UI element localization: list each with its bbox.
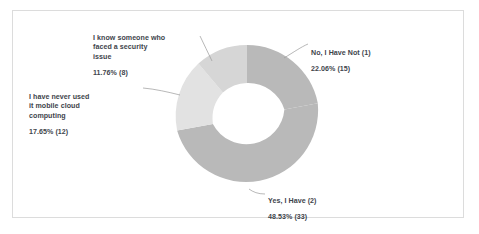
chart-plot-area: No, I Have Not (1) 22.06% (15) Yes, I Ha… [0, 0, 479, 234]
donut-chart-figure: No, I Have Not (1) 22.06% (15) Yes, I Ha… [0, 0, 479, 234]
slice-label-value: 17.65% (12) [29, 128, 141, 137]
slice-label-known-someone: I know someone who faced a security issu… [93, 25, 205, 87]
slice-label-yes-have: Yes, I Have (2) 48.53% (33) [268, 188, 388, 232]
slice-label-title: Yes, I Have (2) [268, 197, 316, 205]
leader-line-never-used [143, 88, 180, 95]
slice-label-title: I know someone who faced a security issu… [93, 34, 165, 60]
slice-label-title: I have never used it mobile cloud comput… [29, 93, 89, 119]
slice-label-value: 11.76% (8) [93, 69, 205, 78]
slice-label-never-used: I have never used it mobile cloud comput… [29, 84, 141, 146]
leader-line-yes-have [249, 189, 265, 194]
slice-label-value: 48.53% (33) [268, 213, 388, 222]
slice-label-value: 22.06% (15) [311, 65, 431, 74]
leader-line-no-have-not [284, 44, 308, 58]
slice-label-no-have-not: No, I Have Not (1) 22.06% (15) [311, 40, 431, 84]
slice-label-title: No, I Have Not (1) [311, 49, 371, 57]
